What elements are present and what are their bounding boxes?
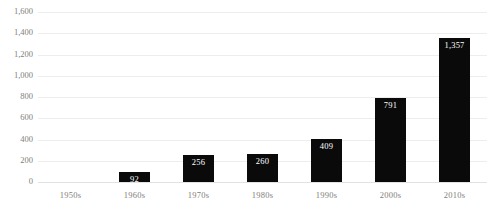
axis-baseline	[38, 182, 487, 183]
bar[interactable]: 1,357	[439, 38, 470, 182]
gridline	[38, 12, 487, 13]
x-axis-tick-label: 2010s	[420, 190, 490, 200]
bar-value-label: 256	[183, 157, 214, 167]
bar[interactable]: 256	[183, 155, 214, 182]
x-axis-tick-label: 1950s	[36, 190, 106, 200]
y-axis-tick-label: 200	[0, 156, 33, 165]
y-axis-tick-label: 1,200	[0, 50, 33, 59]
bar[interactable]: 260	[247, 154, 278, 182]
gridline	[38, 33, 487, 34]
y-axis-tick-label: 1,400	[0, 28, 33, 37]
bar-value-label: 791	[375, 100, 406, 110]
bar-value-label: 1,357	[439, 40, 470, 50]
x-axis-tick-label: 2000s	[356, 190, 426, 200]
gridline	[38, 55, 487, 56]
bar-value-label: 409	[311, 141, 342, 151]
y-axis-tick-label: 1,000	[0, 71, 33, 80]
gridline	[38, 118, 487, 119]
plot-area: 922562604097911,357	[38, 12, 487, 182]
x-axis-tick-label: 1980s	[228, 190, 298, 200]
gridline	[38, 76, 487, 77]
x-axis-tick-label: 1990s	[292, 190, 362, 200]
x-axis-tick-label: 1960s	[100, 190, 170, 200]
bar-value-label: 92	[119, 174, 150, 184]
y-axis-tick-label: 1,600	[0, 7, 33, 16]
y-axis-tick-label: 600	[0, 113, 33, 122]
bar[interactable]: 409	[311, 139, 342, 182]
gridline	[38, 97, 487, 98]
bar-chart: 02004006008001,0001,2001,4001,600 922562…	[0, 0, 493, 208]
y-axis-tick-label: 800	[0, 92, 33, 101]
y-axis-tick-label: 400	[0, 135, 33, 144]
gridline	[38, 140, 487, 141]
bar[interactable]: 791	[375, 98, 406, 182]
bar-value-label: 260	[247, 156, 278, 166]
x-axis-tick-label: 1970s	[164, 190, 234, 200]
y-axis-tick-label: 0	[0, 177, 33, 186]
bar[interactable]: 92	[119, 172, 150, 182]
